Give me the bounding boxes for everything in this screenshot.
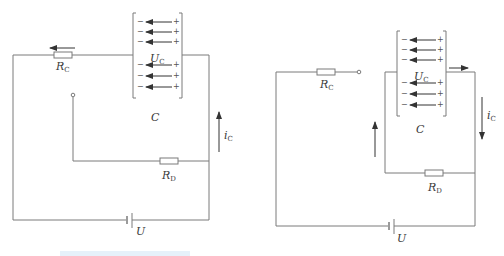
label-rd: RD [428, 182, 442, 195]
label-capacitor: C [151, 112, 159, 123]
highlight-bar [60, 251, 190, 256]
label-ic: iC [487, 110, 496, 123]
label-rc: RC [320, 79, 334, 92]
circuit-figure: RC UC C iC RD U − − − − − − + + + + + + … [0, 0, 504, 256]
resistor-rd [425, 170, 443, 176]
resistor-rc [54, 52, 72, 58]
label-source: U [136, 226, 145, 237]
label-rc: RC [56, 61, 70, 74]
capacitor-left-plate [133, 13, 136, 98]
label-ic: iC [224, 130, 233, 143]
capacitor-left-plate [397, 31, 400, 116]
label-source: U [397, 233, 406, 244]
rc-branch-wire [276, 72, 388, 226]
resistor-rc [317, 69, 335, 75]
open-terminal [357, 70, 361, 74]
resistor-rd [160, 158, 178, 164]
label-capacitor: C [416, 124, 424, 135]
open-terminal [71, 93, 75, 97]
circuit-drawing [0, 0, 504, 256]
inner-branch-wire [73, 97, 160, 161]
label-uc: UC [414, 71, 429, 84]
label-rd: RD [162, 170, 176, 183]
label-uc: UC [150, 53, 165, 66]
